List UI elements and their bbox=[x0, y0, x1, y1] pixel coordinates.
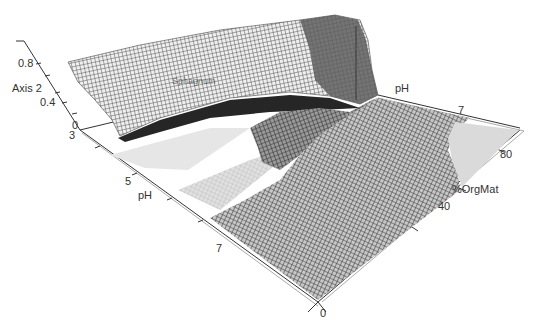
ph-axis-label: pH bbox=[138, 190, 152, 201]
ph-tick-5: 5 bbox=[125, 176, 131, 187]
z-axis-label: Axis 2 bbox=[12, 83, 42, 94]
orgmat-tick-80: 80 bbox=[500, 149, 512, 160]
orgmat-axis-label: %OrgMat bbox=[452, 184, 498, 195]
back-ph-tick-7: 7 bbox=[458, 105, 464, 116]
ph-tick-7: 7 bbox=[216, 243, 222, 254]
back-ph-axis-label: pH bbox=[395, 83, 409, 94]
orgmat-tick-40: 40 bbox=[438, 201, 450, 212]
ph-tick-3: 3 bbox=[69, 130, 75, 141]
z-tick-0.8: 0.8 bbox=[18, 58, 33, 69]
z-tick-0.4: 0.4 bbox=[40, 97, 55, 108]
surface-annotation: Sphagnum bbox=[172, 77, 216, 86]
surface-plot bbox=[0, 0, 534, 323]
orgmat-tick-0: 0 bbox=[320, 308, 326, 319]
